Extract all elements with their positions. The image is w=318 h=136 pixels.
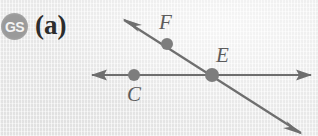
point-label-C: C xyxy=(127,84,141,105)
point-label-E: E xyxy=(216,45,229,66)
horizontal-line xyxy=(91,70,312,81)
figure-canvas: F E C GS (a) xyxy=(0,0,318,136)
point-dot-C xyxy=(128,69,140,81)
point-dot-E xyxy=(205,68,219,82)
part-label: (a) xyxy=(35,12,66,39)
gs-badge: GS xyxy=(1,13,28,40)
gs-badge-label: GS xyxy=(1,13,28,40)
point-label-F: F xyxy=(159,12,172,33)
point-dot-F xyxy=(161,38,173,50)
